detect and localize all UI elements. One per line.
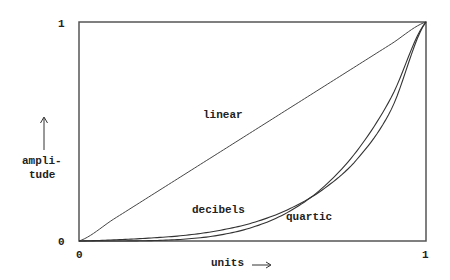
chart: 1 0 0 1 ampli- tude units linear decibel… (0, 0, 450, 280)
y-tick-0: 0 (58, 236, 65, 248)
y-tick-1: 1 (58, 18, 65, 30)
linear-curve (79, 22, 426, 241)
y-axis-label-line1: ampli- (22, 155, 62, 167)
x-tick-1: 1 (422, 249, 429, 261)
linear-label: linear (203, 109, 243, 121)
decibels-label: decibels (192, 204, 245, 216)
quartic-label: quartic (286, 211, 332, 223)
y-axis-label-line2: tude (29, 169, 56, 181)
x-axis-label: units (211, 257, 244, 269)
x-tick-0: 0 (76, 249, 83, 261)
